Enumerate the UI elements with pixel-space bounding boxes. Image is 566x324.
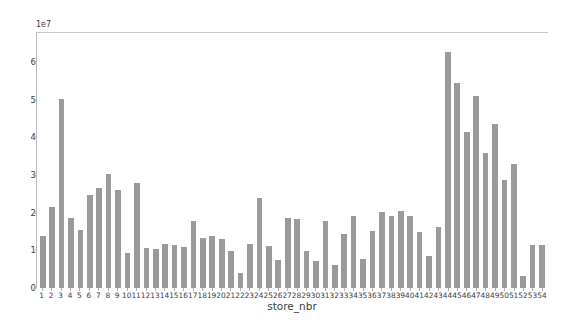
bar-52 xyxy=(519,33,528,288)
x-tick-label: 12 xyxy=(141,291,150,300)
bar-2 xyxy=(47,33,56,288)
y-tick-label-6: 6 xyxy=(0,57,36,67)
x-tick-label: 20 xyxy=(216,291,225,300)
bar-rect xyxy=(341,234,347,288)
bar-rect xyxy=(304,251,310,288)
y-tick-label-5: 5 xyxy=(0,95,36,105)
bar-25 xyxy=(264,33,273,288)
x-tick-label: 51 xyxy=(509,291,518,300)
x-tick-label: 4 xyxy=(68,291,73,300)
bar-rect xyxy=(59,99,65,288)
bar-50 xyxy=(500,33,509,288)
bar-49 xyxy=(490,33,499,288)
x-tick-label: 40 xyxy=(405,291,414,300)
x-tick-label: 24 xyxy=(254,291,263,300)
bar-27 xyxy=(283,33,292,288)
y-tick-mark xyxy=(33,99,37,100)
bar-46 xyxy=(462,33,471,288)
y-tick-mark xyxy=(33,212,37,213)
bar-rect xyxy=(492,124,498,288)
x-tick-label: 7 xyxy=(96,291,101,300)
bar-rect xyxy=(511,164,517,288)
bar-series xyxy=(37,33,548,288)
bar-rect xyxy=(125,253,131,288)
bar-17 xyxy=(189,33,198,288)
bar-35 xyxy=(358,33,367,288)
bar-rect xyxy=(162,244,168,288)
x-tick-label: 25 xyxy=(264,291,273,300)
x-tick-label: 14 xyxy=(160,291,169,300)
bar-36 xyxy=(368,33,377,288)
bar-rect xyxy=(436,227,442,289)
x-tick-label: 45 xyxy=(452,291,461,300)
bar-31 xyxy=(321,33,330,288)
bar-30 xyxy=(311,33,320,288)
bar-rect xyxy=(219,239,225,288)
x-tick-label: 15 xyxy=(169,291,178,300)
x-tick-label: 1 xyxy=(39,291,44,300)
x-tick-label: 52 xyxy=(518,291,527,300)
bar-39 xyxy=(396,33,405,288)
bar-7 xyxy=(95,33,104,288)
x-tick-label: 53 xyxy=(528,291,537,300)
bar-19 xyxy=(208,33,217,288)
y-tick-mark xyxy=(33,137,37,138)
x-tick-label: 29 xyxy=(301,291,310,300)
bar-29 xyxy=(302,33,311,288)
x-tick-label: 47 xyxy=(471,291,480,300)
bar-rect xyxy=(520,276,526,288)
x-tick-label: 48 xyxy=(481,291,490,300)
x-axis-label: store_nbr xyxy=(36,300,548,312)
bar-40 xyxy=(405,33,414,288)
x-tick-label: 37 xyxy=(377,291,386,300)
x-tick-label: 6 xyxy=(87,291,92,300)
x-tick-label: 49 xyxy=(490,291,499,300)
x-tick-label: 9 xyxy=(115,291,120,300)
bar-24 xyxy=(255,33,264,288)
bar-rect xyxy=(172,245,178,288)
x-tick-label: 54 xyxy=(537,291,546,300)
bar-chart-figure: Sum of unit_sales of store_nbr 1e7 01234… xyxy=(0,0,566,324)
bar-41 xyxy=(415,33,424,288)
y-axis-offset-text: 1e7 xyxy=(36,20,51,29)
x-tick-label: 42 xyxy=(424,291,433,300)
bar-rect xyxy=(502,180,508,288)
bar-32 xyxy=(330,33,339,288)
bar-rect xyxy=(209,236,215,288)
bar-4 xyxy=(66,33,75,288)
x-tick-label: 33 xyxy=(339,291,348,300)
y-tick-label-0: 0 xyxy=(0,283,36,293)
bar-rect xyxy=(530,245,536,288)
bar-42 xyxy=(424,33,433,288)
bar-5 xyxy=(76,33,85,288)
bar-23 xyxy=(245,33,254,288)
bar-rect xyxy=(153,249,159,288)
x-tick-label: 23 xyxy=(245,291,254,300)
bar-rect xyxy=(247,244,253,288)
bar-14 xyxy=(160,33,169,288)
bar-9 xyxy=(113,33,122,288)
bar-1 xyxy=(38,33,47,288)
x-tick-label: 35 xyxy=(358,291,367,300)
x-tick-label: 46 xyxy=(462,291,471,300)
bar-15 xyxy=(170,33,179,288)
x-tick-label: 32 xyxy=(330,291,339,300)
x-tick-label: 27 xyxy=(282,291,291,300)
x-tick-label: 26 xyxy=(273,291,282,300)
bar-44 xyxy=(443,33,452,288)
y-tick-mark xyxy=(33,62,37,63)
x-tick-label: 17 xyxy=(188,291,197,300)
x-tick-label: 31 xyxy=(320,291,329,300)
bar-rect xyxy=(200,238,206,288)
x-tick-label: 3 xyxy=(58,291,63,300)
bar-rect xyxy=(285,218,291,288)
bar-rect xyxy=(78,230,84,288)
bar-rect xyxy=(332,265,338,288)
bar-rect xyxy=(464,132,470,288)
bar-6 xyxy=(85,33,94,288)
bar-rect xyxy=(407,216,413,288)
bar-rect xyxy=(417,232,423,288)
bar-11 xyxy=(132,33,141,288)
x-tick-label: 16 xyxy=(179,291,188,300)
bar-rect xyxy=(379,212,385,288)
